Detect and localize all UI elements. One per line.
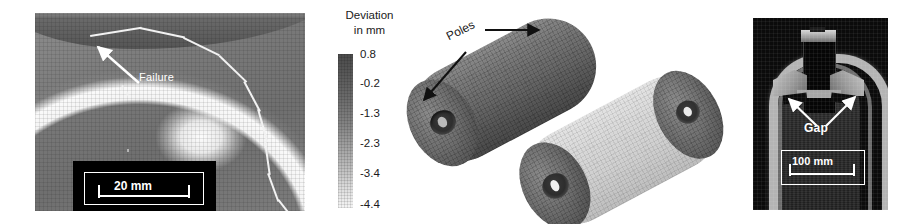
scale-bar-label-100mm: 100 mm	[789, 155, 836, 167]
scale-bar-box-20mm: 20 mm	[73, 161, 216, 211]
failure-arrow-icon	[91, 41, 143, 87]
colorbar-tick-4: -3.4	[360, 167, 380, 179]
scale-bar-line-100mm	[789, 173, 855, 175]
poles-arrow-left-icon	[416, 48, 472, 110]
failure-label: Failure	[139, 71, 174, 83]
gap-label: Gap	[804, 121, 828, 135]
crack-speck	[127, 149, 129, 152]
cylinder-models-panel: Poles	[400, 6, 750, 218]
poles-arrow-right-icon	[483, 21, 549, 39]
scale-bar-tick-right	[188, 185, 190, 198]
poles-label: Poles	[444, 18, 477, 44]
scale-bar-tick-left	[98, 185, 100, 198]
scale-bar-label-20mm: 20 mm	[111, 179, 155, 193]
crack-speck	[126, 92, 129, 96]
colorbar-tick-0: 0.8	[360, 48, 376, 60]
colorbar-tick-1: -0.2	[360, 77, 380, 89]
colorbar-gradient	[338, 54, 353, 208]
colorbar-mesh-texture	[338, 54, 353, 208]
failure-photograph-panel: Failure 20 mm	[35, 13, 305, 211]
scale-bar-tick-right-100mm	[853, 164, 855, 176]
colorbar-tick-5: -4.4	[360, 198, 380, 210]
radiograph-panel: Gap 100 mm	[753, 18, 888, 210]
scale-bar-line	[98, 195, 190, 197]
colorbar-tick-2: -1.3	[360, 107, 380, 119]
colorbar-tick-3: -2.3	[360, 137, 380, 149]
